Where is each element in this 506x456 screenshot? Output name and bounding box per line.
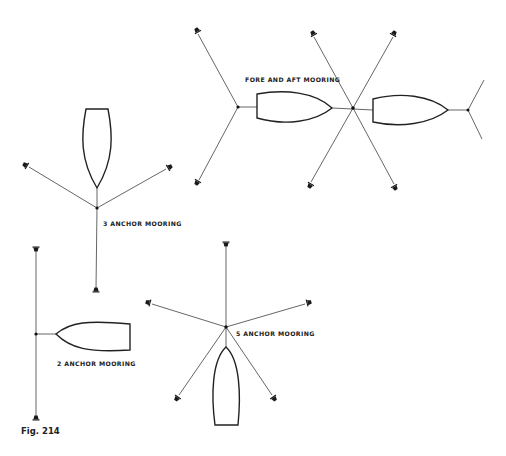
junction-node (236, 105, 239, 108)
rode-line (199, 107, 238, 180)
anchor-icon (270, 395, 279, 403)
rode-line (468, 110, 482, 139)
anchor-icon (390, 29, 399, 37)
anchor-icon (21, 161, 29, 170)
rode-line (152, 304, 226, 327)
anchor-icon (173, 395, 182, 403)
junction-node (351, 106, 355, 110)
junction-node (34, 332, 37, 335)
anchor-icon (145, 298, 152, 306)
anchor-icon (33, 416, 40, 421)
boat-hull (373, 95, 448, 124)
three-anchor-mooring: 3 ANCHOR MOORING (21, 109, 181, 293)
rode-line (314, 37, 353, 108)
junction-node (95, 206, 98, 209)
anchor-icon (93, 288, 100, 293)
two-anchor-mooring: 2 ANCHOR MOORING (33, 247, 136, 421)
anchor-icon (391, 184, 400, 192)
boat-hull (213, 347, 239, 425)
fore-and-aft-mooring: FORE AND AFT MOORING (193, 26, 484, 191)
anchor-icon (166, 163, 174, 172)
diagram-label: 3 ANCHOR MOORING (103, 220, 182, 227)
boat-hull (257, 92, 332, 122)
anchor-icon (33, 247, 40, 252)
junction-node (467, 109, 470, 112)
rode-line (97, 169, 166, 208)
figure-caption: Fig. 214 (21, 426, 60, 436)
diagram-label: 5 ANCHOR MOORING (236, 330, 315, 337)
anchor-icon (309, 29, 318, 37)
rode-line (226, 304, 305, 327)
rode-line (96, 208, 97, 289)
rode-line (468, 80, 484, 110)
anchor-icon (306, 182, 315, 190)
anchor-icon (306, 298, 313, 306)
rode-line (311, 108, 353, 182)
boat-hull (56, 322, 130, 351)
five-anchor-mooring: 5 ANCHOR MOORING (145, 242, 315, 426)
anchor-icon (223, 242, 230, 247)
rode-line (29, 167, 97, 208)
boat-hull (83, 109, 111, 188)
mooring-diagram-canvas: FORE AND AFT MOORING 3 ANCHOR MOORING 2 … (0, 0, 506, 456)
diagram-label: FORE AND AFT MOORING (245, 76, 340, 83)
anchor-icon (193, 179, 202, 187)
rode-line (198, 34, 238, 107)
anchor-icon (193, 26, 202, 34)
diagram-label: 2 ANCHOR MOORING (57, 360, 136, 367)
junction-node (224, 325, 227, 328)
